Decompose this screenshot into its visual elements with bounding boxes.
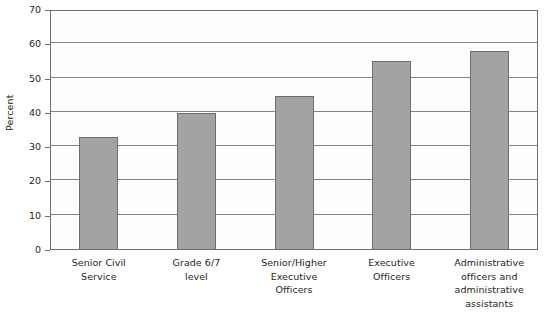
- bar: [275, 96, 314, 250]
- y-tick-mark: [45, 10, 50, 11]
- bars-group: [50, 10, 538, 250]
- bar-chart: Percent 010203040506070 Senior Civil Ser…: [0, 0, 549, 320]
- bar: [470, 51, 509, 250]
- y-tick-mark: [45, 147, 50, 148]
- y-tick-label: 60: [1, 39, 41, 49]
- y-tick-mark: [45, 79, 50, 80]
- y-tick-label: 40: [1, 108, 41, 118]
- x-axis-label: Senior/Higher Executive Officers: [245, 256, 343, 297]
- y-tick-label: 70: [1, 5, 41, 15]
- y-tick-mark: [45, 113, 50, 114]
- x-axis-label: Administrative officers and administrati…: [440, 256, 538, 310]
- y-tick-mark: [45, 250, 50, 251]
- x-axis-labels: Senior Civil ServiceGrade 6/7 levelSenio…: [50, 256, 538, 318]
- bar: [177, 113, 216, 250]
- y-tick-label: 0: [1, 245, 41, 255]
- x-axis-label: Executive Officers: [343, 256, 441, 283]
- x-axis-label: Senior Civil Service: [50, 256, 148, 283]
- bar: [372, 61, 411, 250]
- y-tick-label: 10: [1, 211, 41, 221]
- y-tick-label: 20: [1, 176, 41, 186]
- x-axis-label: Grade 6/7 level: [148, 256, 246, 283]
- bar: [79, 137, 118, 250]
- y-tick-mark: [45, 44, 50, 45]
- y-tick-mark: [45, 181, 50, 182]
- y-tick-label: 50: [1, 74, 41, 84]
- y-tick-mark: [45, 216, 50, 217]
- y-tick-label: 30: [1, 142, 41, 152]
